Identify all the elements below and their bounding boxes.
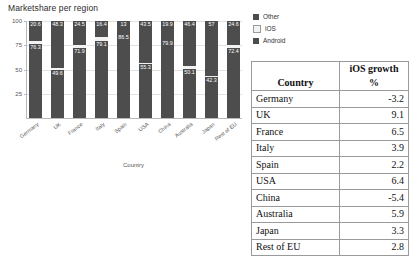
bar-value-label: 16.4 bbox=[96, 22, 107, 27]
table-header-row: Country iOS growth % bbox=[252, 62, 409, 91]
legend-swatch-icon bbox=[253, 14, 259, 20]
bar-segment-other: 20.6 bbox=[29, 21, 42, 41]
bar-column: 16.479.1Italy bbox=[95, 21, 108, 118]
column-header-country: Country bbox=[252, 62, 340, 91]
bar-column: 19.979.9China bbox=[161, 21, 174, 118]
bar-column: 1386.5Spain bbox=[117, 21, 130, 118]
legend-label: Android bbox=[263, 38, 285, 45]
column-header-ios-growth: iOS growth % bbox=[339, 62, 408, 91]
cell-ios-growth: 3.9 bbox=[339, 140, 408, 157]
ios-growth-table: Country iOS growth % Germany-3.2UK9.1Fra… bbox=[251, 61, 409, 256]
bar-segment-other: 43.5 bbox=[139, 21, 152, 63]
legend-item-other: Other bbox=[253, 14, 285, 21]
bar-segment-other: 19.9 bbox=[161, 21, 174, 40]
bar-segment-android: 50.1 bbox=[183, 69, 196, 118]
cell-country: Japan bbox=[252, 223, 340, 240]
cell-ios-growth: 2.2 bbox=[339, 157, 408, 174]
cell-country: Germany bbox=[252, 91, 340, 108]
bar-value-label: 79.9 bbox=[162, 41, 173, 46]
bar-column: 46.450.1Australia bbox=[183, 21, 196, 118]
cell-ios-growth: 6.5 bbox=[339, 124, 408, 141]
bar-segment-android: 79.9 bbox=[161, 40, 174, 118]
cell-ios-growth: -3.2 bbox=[339, 91, 408, 108]
bar-value-label: 19.9 bbox=[162, 22, 173, 27]
bar-value-label: 43.5 bbox=[140, 22, 151, 27]
cell-country: Australia bbox=[252, 206, 340, 223]
bar-value-label: 13 bbox=[121, 22, 127, 27]
bar-segment-android: 55.3 bbox=[139, 64, 152, 118]
bar-value-label: 24.5 bbox=[74, 22, 85, 27]
cell-ios-growth: 2.8 bbox=[339, 239, 408, 256]
table-row: Australia5.9 bbox=[252, 206, 409, 223]
y-axis-tick-label: 50 bbox=[15, 67, 22, 73]
bar-value-label: 49.6 bbox=[52, 71, 63, 76]
table-row: Italy3.9 bbox=[252, 140, 409, 157]
bar-segment-other: 46.4 bbox=[183, 21, 196, 66]
bar-value-label: 20.6 bbox=[30, 22, 41, 27]
table-row: France6.5 bbox=[252, 124, 409, 141]
bar-value-label: 50.1 bbox=[184, 70, 195, 75]
cell-country: Rest of EU bbox=[252, 239, 340, 256]
bar-column: 20.676.3Germany bbox=[29, 21, 42, 118]
x-axis-title: Country bbox=[26, 162, 241, 168]
cell-ios-growth: 3.3 bbox=[339, 223, 408, 240]
column-header-ios-growth-line1: iOS growth bbox=[344, 62, 404, 76]
bar-segment-android: 76.3 bbox=[29, 44, 42, 118]
table-row: China-5.4 bbox=[252, 190, 409, 207]
legend-swatch-icon bbox=[253, 25, 261, 33]
bar-column: 48.349.6UK bbox=[51, 21, 64, 118]
bar-value-label: 79.1 bbox=[96, 42, 107, 47]
bar-segment-android: 71.9 bbox=[73, 48, 86, 118]
bar-column: 24.672.4Rest of EU bbox=[227, 21, 240, 118]
bar-value-label: 76.3 bbox=[30, 45, 41, 50]
x-axis-tick-label: Italy bbox=[94, 121, 105, 132]
legend-item-ios: iOS bbox=[253, 25, 285, 33]
ios-growth-table-wrapper: Country iOS growth % Germany-3.2UK9.1Fra… bbox=[251, 61, 409, 256]
bar-value-label: 57 bbox=[209, 22, 215, 27]
x-axis-tick-label: USA bbox=[137, 121, 149, 133]
bar-segment-other: 24.5 bbox=[73, 21, 86, 45]
bar-segment-other: 57 bbox=[205, 21, 218, 76]
bar-group: 20.676.3Germany48.349.6UK24.571.9France1… bbox=[27, 21, 242, 118]
cell-country: Spain bbox=[252, 157, 340, 174]
cell-country: China bbox=[252, 190, 340, 207]
bar-segment-android: 42.3 bbox=[205, 77, 218, 118]
bar-segment-android: 72.4 bbox=[227, 48, 240, 118]
table-row: USA6.4 bbox=[252, 173, 409, 190]
marketshare-chart: Marketshare per region 100755025 20.676.… bbox=[0, 0, 250, 185]
bar-value-label: 42.3 bbox=[206, 78, 217, 83]
bar-column: 24.571.9France bbox=[73, 21, 86, 118]
table-row: Spain2.2 bbox=[252, 157, 409, 174]
bar-value-label: 55.3 bbox=[140, 65, 151, 70]
column-header-ios-growth-line2: % bbox=[344, 76, 404, 90]
bar-segment-android: 49.6 bbox=[51, 70, 64, 118]
bar-segment-android: 86.5 bbox=[117, 34, 130, 118]
x-axis-tick-label: Japan bbox=[200, 121, 215, 135]
table-row: Germany-3.2 bbox=[252, 91, 409, 108]
bar-column: 43.555.3USA bbox=[139, 21, 152, 118]
cell-ios-growth: -5.4 bbox=[339, 190, 408, 207]
table-row: Rest of EU2.8 bbox=[252, 239, 409, 256]
cell-country: France bbox=[252, 124, 340, 141]
bar-segment-other: 48.3 bbox=[51, 21, 64, 68]
chart-plot-area: 100755025 20.676.3Germany48.349.6UK24.57… bbox=[26, 21, 242, 119]
bar-value-label: 72.4 bbox=[228, 49, 239, 54]
x-axis-tick-label: France bbox=[66, 121, 83, 136]
bar-column: 5742.3Japan bbox=[205, 21, 218, 118]
x-axis-tick-label: Spain bbox=[113, 121, 128, 134]
bar-value-label: 46.4 bbox=[184, 22, 195, 27]
legend-item-android: Android bbox=[253, 38, 285, 45]
x-axis-tick-label: China bbox=[156, 121, 171, 134]
bar-segment-other: 24.6 bbox=[227, 21, 240, 45]
bar-segment-other: 13 bbox=[117, 21, 130, 34]
x-axis-tick-label: UK bbox=[52, 121, 62, 130]
table-row: UK9.1 bbox=[252, 107, 409, 124]
bar-value-label: 71.9 bbox=[74, 49, 85, 54]
table-row: Japan3.3 bbox=[252, 223, 409, 240]
cell-country: UK bbox=[252, 107, 340, 124]
bar-value-label: 86.5 bbox=[118, 35, 129, 40]
chart-legend: OtheriOSAndroid bbox=[253, 14, 285, 44]
x-axis-tick-label: Australia bbox=[173, 121, 193, 139]
cell-ios-growth: 6.4 bbox=[339, 173, 408, 190]
cell-ios-growth: 5.9 bbox=[339, 206, 408, 223]
